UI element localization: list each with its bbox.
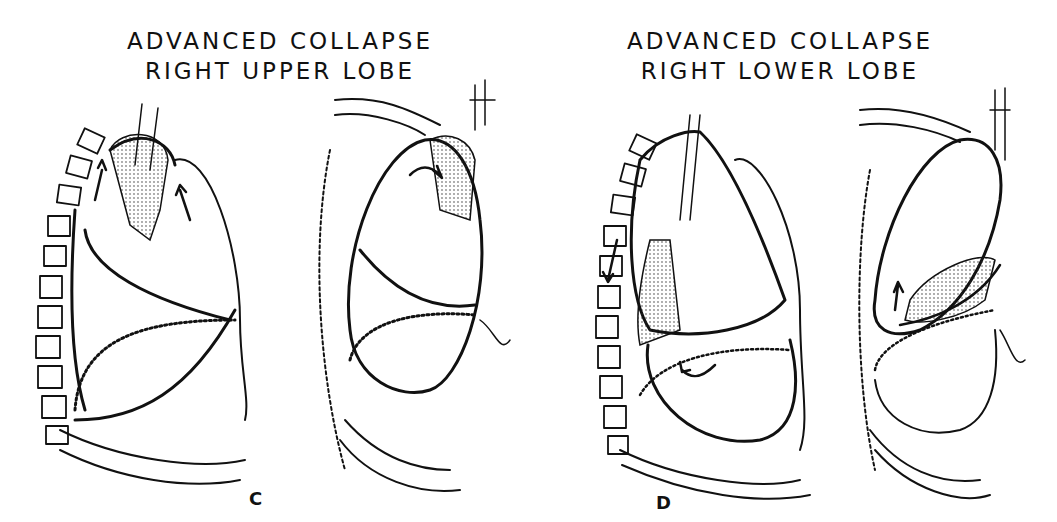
diagram-figure: ADVANCED COLLAPSE RIGHT UPPER LOBE ADVAN… bbox=[0, 0, 1057, 522]
panel-d-title-line2: RIGHT LOWER LOBE bbox=[600, 56, 960, 86]
panel-c-label: C bbox=[249, 488, 262, 509]
panel-d-lateral-view bbox=[859, 88, 1025, 498]
panel-c-lateral-view bbox=[319, 80, 510, 491]
panel-d-title: ADVANCED COLLAPSE RIGHT LOWER LOBE bbox=[600, 26, 960, 86]
vertebrae-c bbox=[36, 128, 105, 444]
panel-c-frontal-view bbox=[36, 104, 246, 484]
panel-c-title-line2: RIGHT UPPER LOBE bbox=[100, 56, 460, 86]
panel-d-title-line1: ADVANCED COLLAPSE bbox=[600, 26, 960, 56]
panel-d-frontal-view bbox=[596, 115, 810, 499]
panel-d-label: D bbox=[656, 492, 671, 513]
panel-c-title-line1: ADVANCED COLLAPSE bbox=[100, 26, 460, 56]
panel-c-title: ADVANCED COLLAPSE RIGHT UPPER LOBE bbox=[100, 26, 460, 86]
